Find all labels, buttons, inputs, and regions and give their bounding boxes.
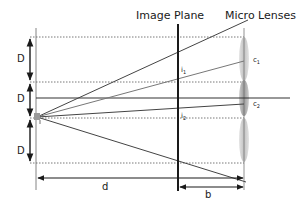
light-field-diagram: Image Plane Micro Lenses D D D d b i1 i2…: [0, 0, 304, 207]
c1-label: c1: [253, 56, 260, 65]
d-label: d: [102, 181, 108, 192]
ray-c2: [37, 104, 244, 117]
image-plane-label: Image Plane: [136, 9, 204, 22]
D-label-top: D: [17, 53, 25, 64]
ray-bottom: [37, 117, 246, 182]
i2-label: i2: [181, 112, 186, 121]
D-label-bottom: D: [17, 145, 25, 156]
c2-label: c2: [253, 100, 260, 109]
i1-label: i1: [181, 66, 186, 75]
point-source: [34, 113, 40, 120]
micro-lenses-label: Micro Lenses: [225, 9, 296, 22]
b-label: b: [205, 189, 211, 200]
D-label-middle: D: [17, 93, 25, 104]
